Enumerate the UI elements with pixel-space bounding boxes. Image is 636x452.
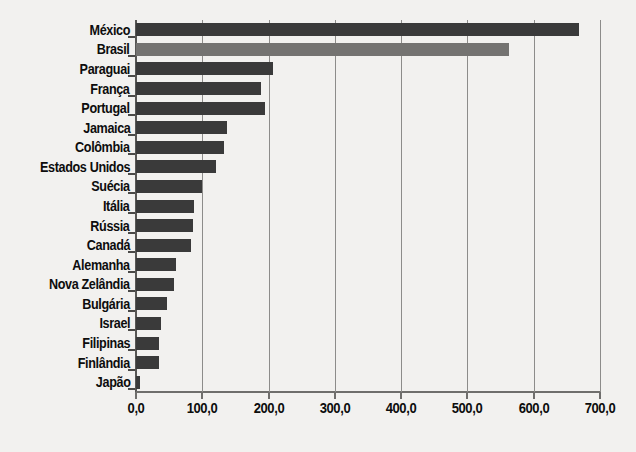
category-label: Finlândia bbox=[78, 354, 130, 372]
x-tick-mark bbox=[466, 392, 468, 399]
category-label: Canadá bbox=[87, 236, 130, 254]
bar bbox=[136, 141, 224, 154]
bar bbox=[136, 278, 174, 291]
category-tick bbox=[128, 388, 135, 390]
bar bbox=[136, 356, 159, 369]
bar bbox=[136, 23, 579, 36]
bar bbox=[136, 121, 227, 134]
category-tick bbox=[128, 271, 135, 273]
category-tick bbox=[128, 75, 135, 77]
x-tick-label: 600,0 bbox=[518, 400, 549, 416]
plot-area bbox=[136, 20, 600, 392]
category-label: México bbox=[89, 21, 130, 39]
bar bbox=[136, 317, 161, 330]
category-label: Jamaica bbox=[83, 119, 130, 137]
category-label: Bulgária bbox=[82, 295, 130, 313]
x-tick-label: 300,0 bbox=[319, 400, 350, 416]
bar bbox=[136, 258, 176, 271]
x-tick-mark bbox=[400, 392, 402, 399]
category-tick bbox=[128, 212, 135, 214]
category-tick bbox=[128, 310, 135, 312]
category-tick bbox=[128, 55, 135, 57]
category-label: Israel bbox=[99, 314, 130, 332]
category-tick bbox=[128, 173, 135, 175]
category-label: Filipinas bbox=[82, 334, 130, 352]
category-tick bbox=[128, 36, 135, 38]
category-label: Alemanha bbox=[73, 256, 130, 274]
bar bbox=[136, 180, 202, 193]
x-tick-label: 700,0 bbox=[585, 400, 616, 416]
category-label: Paraguai bbox=[80, 60, 130, 78]
bar bbox=[136, 297, 167, 310]
x-tick-mark bbox=[334, 392, 336, 399]
category-label: França bbox=[91, 80, 130, 98]
category-label: Itália bbox=[103, 197, 130, 215]
category-tick bbox=[128, 232, 135, 234]
category-label: Colômbia bbox=[75, 138, 130, 156]
category-label: Japão bbox=[95, 373, 130, 391]
x-tick-label: 0,0 bbox=[128, 400, 145, 416]
x-tick-label: 500,0 bbox=[452, 400, 483, 416]
category-label: Portugal bbox=[82, 99, 130, 117]
bar bbox=[136, 82, 261, 95]
bar bbox=[136, 200, 194, 213]
bar bbox=[136, 337, 159, 350]
category-tick bbox=[128, 349, 135, 351]
bar-chart: MéxicoBrasilParaguaiFrançaPortugalJamaic… bbox=[0, 0, 636, 452]
category-label: Suécia bbox=[92, 177, 130, 195]
x-tick-mark bbox=[268, 392, 270, 399]
category-tick bbox=[128, 192, 135, 194]
category-tick bbox=[128, 329, 135, 331]
bar bbox=[136, 102, 265, 115]
bar bbox=[136, 62, 273, 75]
category-label: Brasil bbox=[97, 40, 130, 58]
bar bbox=[136, 239, 191, 252]
x-tick-mark bbox=[201, 392, 203, 399]
category-label: Rússia bbox=[91, 217, 130, 235]
bar bbox=[136, 160, 216, 173]
x-tick-label: 100,0 bbox=[187, 400, 218, 416]
category-tick bbox=[128, 153, 135, 155]
bar bbox=[136, 376, 140, 389]
x-tick-mark bbox=[599, 392, 601, 399]
category-tick bbox=[128, 290, 135, 292]
category-label: Nova Zelândia bbox=[49, 275, 130, 293]
x-tick-mark bbox=[135, 392, 137, 399]
category-tick bbox=[128, 251, 135, 253]
x-tick-label: 200,0 bbox=[253, 400, 284, 416]
category-tick bbox=[128, 369, 135, 371]
gridline-700-0 bbox=[600, 20, 601, 392]
bar bbox=[136, 219, 193, 232]
x-tick-label: 400,0 bbox=[386, 400, 417, 416]
category-label: Estados Unidos bbox=[40, 158, 130, 176]
category-tick bbox=[128, 134, 135, 136]
x-tick-mark bbox=[533, 392, 535, 399]
category-tick bbox=[128, 114, 135, 116]
bar bbox=[136, 43, 509, 56]
category-tick bbox=[128, 95, 135, 97]
